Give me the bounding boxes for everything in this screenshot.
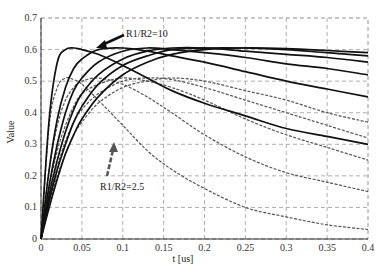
y-tick-label: 0.6 [25, 44, 38, 55]
x-tick-label: 0.4 [362, 242, 375, 253]
y-tick-label: 0.1 [25, 201, 38, 212]
x-tick-label: 0.3 [280, 242, 293, 253]
x-tick-label: 0.1 [117, 242, 130, 253]
arrow-head-icon [96, 40, 107, 48]
annotation-r1r2-10: R1/R2=10 [96, 28, 168, 48]
x-axis-label: t [us] [173, 253, 194, 264]
y-tick-label: 0.3 [25, 138, 38, 149]
x-tick-label: 0.25 [237, 242, 255, 253]
y-tick-label: 0.4 [25, 107, 38, 118]
annotation-r1r2-2-5: R1/R2=2.5 [100, 142, 144, 192]
x-tick-labels: 00.050.10.150.20.250.30.350.4 [39, 242, 375, 253]
line-chart: 00.10.20.30.40.50.60.7 00.050.10.150.20.… [0, 0, 392, 270]
x-tick-label: 0.05 [73, 242, 91, 253]
arrow-head-icon [109, 142, 118, 152]
arrow-line [107, 150, 113, 176]
y-tick-label: 0.5 [25, 75, 38, 86]
x-tick-label: 0.15 [155, 242, 173, 253]
y-tick-label: 0.7 [25, 12, 38, 23]
x-tick-label: 0.35 [318, 242, 336, 253]
annotation-label-2-5: R1/R2=2.5 [100, 181, 144, 192]
y-axis-label: Value [5, 120, 16, 143]
x-tick-label: 0.2 [198, 242, 211, 253]
y-tick-label: 0.2 [25, 170, 38, 181]
x-tick-label: 0 [39, 242, 44, 253]
y-tick-label: 0 [32, 233, 37, 244]
y-tick-labels: 00.10.20.30.40.50.60.7 [25, 12, 38, 244]
annotation-label-10: R1/R2=10 [126, 28, 168, 39]
